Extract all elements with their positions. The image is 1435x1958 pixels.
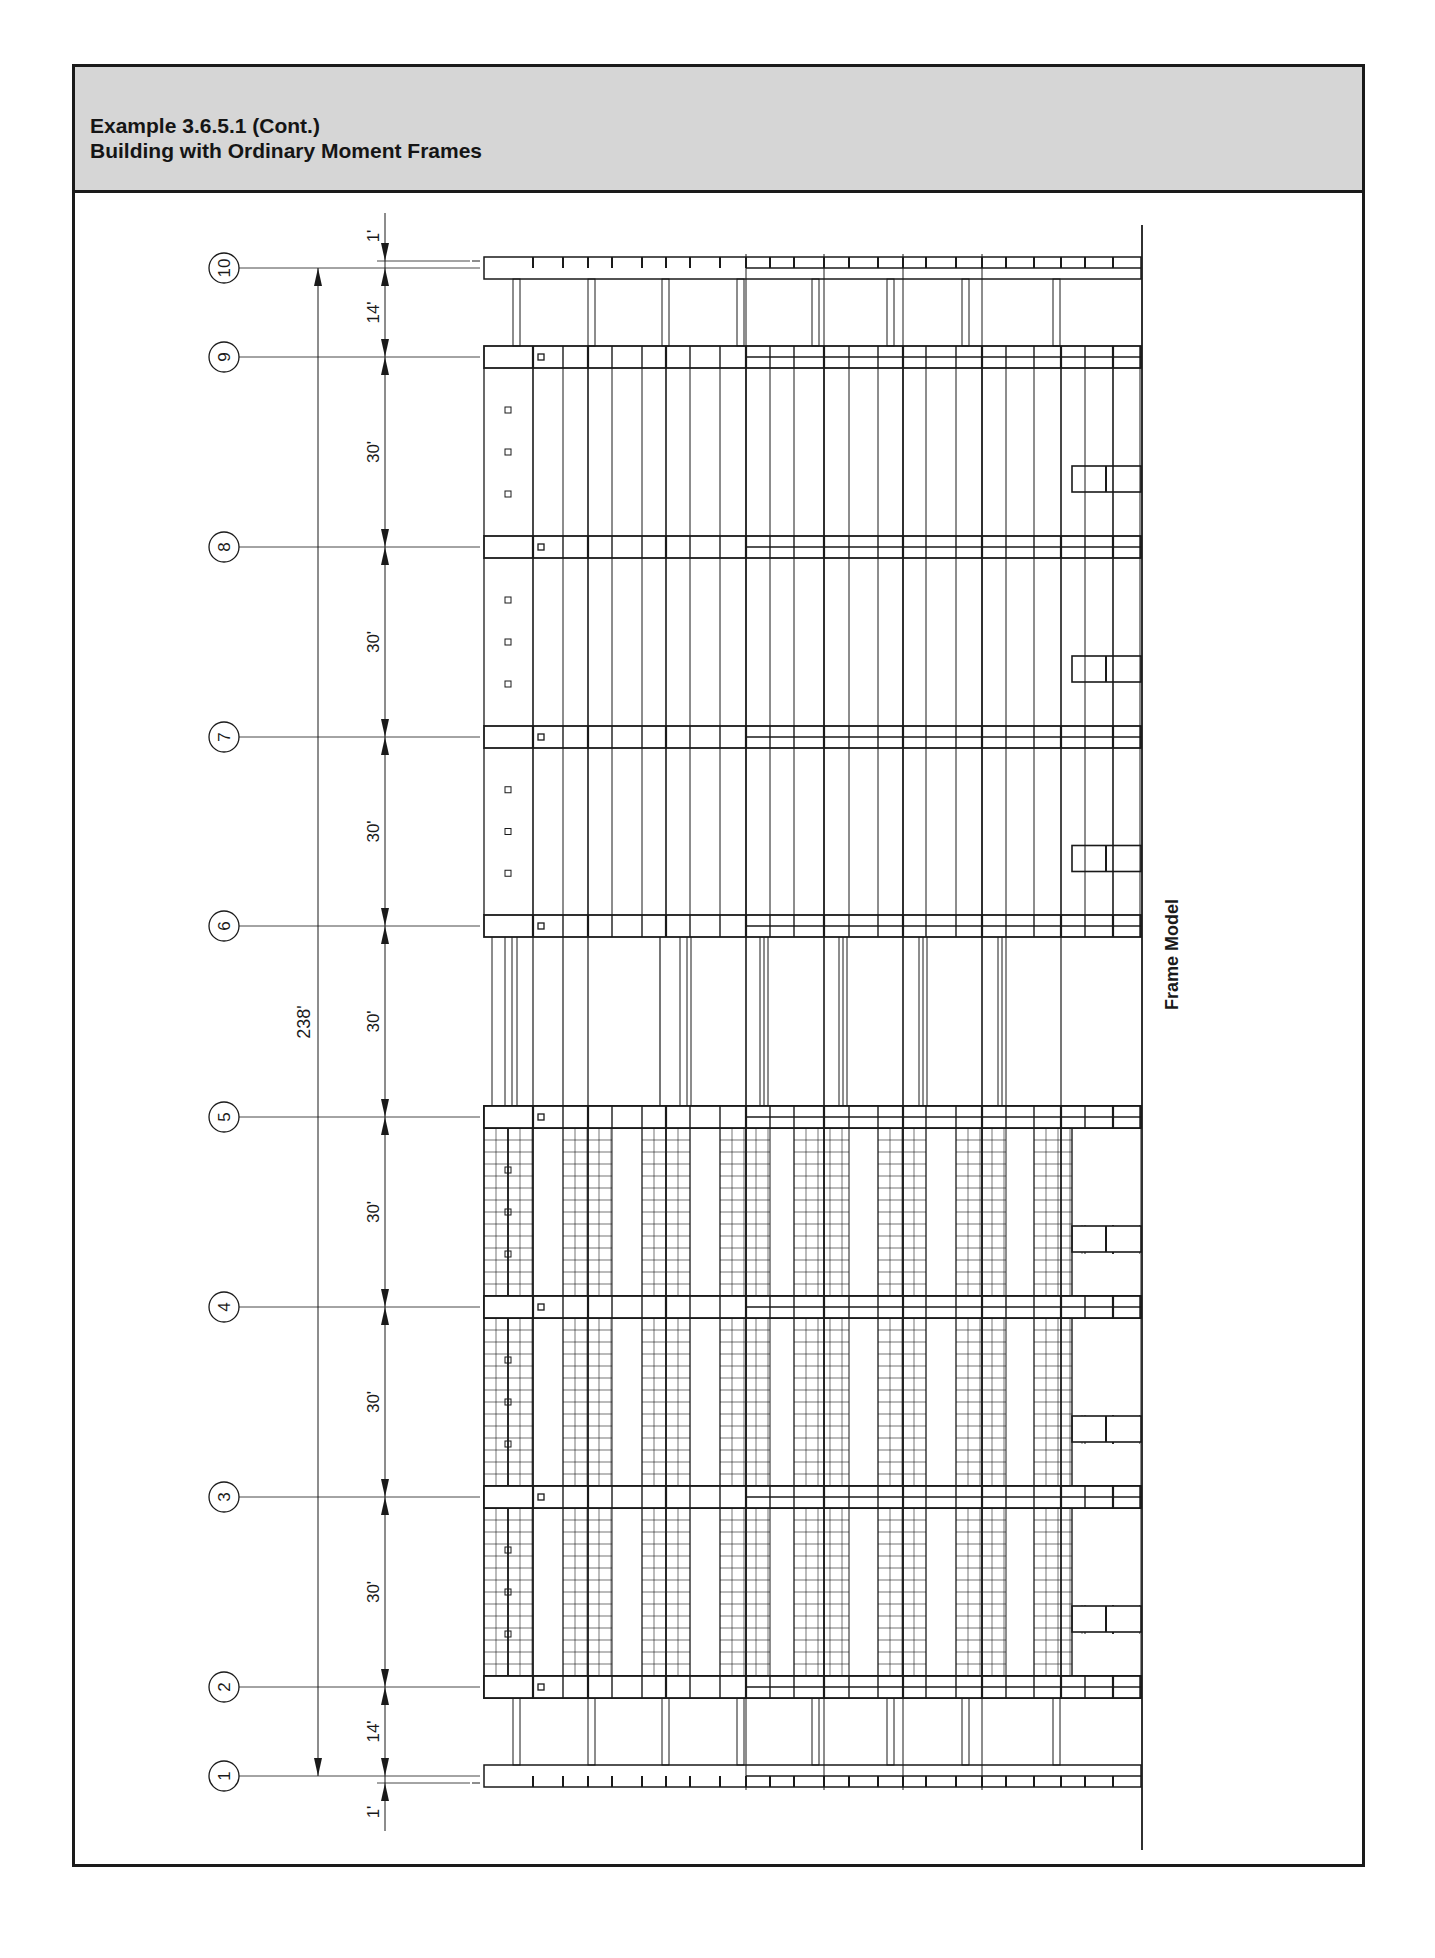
arrow-icon xyxy=(381,339,389,357)
arrow-icon xyxy=(381,1758,389,1776)
arrow-icon xyxy=(381,268,389,286)
stub-column xyxy=(887,1698,894,1765)
frame-model-caption: Frame Model xyxy=(1162,899,1183,1010)
node-marker xyxy=(538,734,544,740)
stub-column xyxy=(737,279,744,346)
stub-column xyxy=(662,1698,669,1765)
top-dimension-label: 1' xyxy=(364,230,383,243)
arrow-icon xyxy=(381,547,389,565)
story-dimension-label: 14' xyxy=(364,301,383,323)
story-dimension-label: 30' xyxy=(364,1391,383,1413)
arrow-icon xyxy=(381,1479,389,1497)
node-marker xyxy=(505,681,511,687)
node-marker xyxy=(505,639,511,645)
node-marker xyxy=(505,597,511,603)
stub-column xyxy=(887,279,894,346)
story-dimension-label: 30' xyxy=(364,441,383,463)
stub-column xyxy=(812,279,819,346)
node-marker xyxy=(538,923,544,929)
node-marker xyxy=(538,544,544,550)
node-marker xyxy=(505,491,511,497)
arrow-icon xyxy=(381,1687,389,1705)
node-marker xyxy=(505,870,511,876)
story-dimension-label: 30' xyxy=(364,1201,383,1223)
panel-blank xyxy=(1072,1254,1140,1295)
arrow-icon xyxy=(381,529,389,547)
panel-blank xyxy=(1072,1634,1140,1675)
stub-column xyxy=(588,279,595,346)
grid-label: 5 xyxy=(215,1112,234,1121)
arrow-icon xyxy=(381,243,389,261)
arrow-icon xyxy=(381,719,389,737)
story-dimension-label: 30' xyxy=(364,1581,383,1603)
panel-blank xyxy=(1072,1509,1140,1605)
arrow-icon xyxy=(381,1117,389,1135)
frame-model-drawing: 10987654321238'14'30'30'30'30'30'30'30'1… xyxy=(0,0,1435,1958)
arrow-icon xyxy=(314,1758,322,1776)
stub-column xyxy=(1053,1698,1060,1765)
node-marker xyxy=(505,407,511,413)
bottom-dimension-label: 1' xyxy=(364,1806,383,1819)
story-dimension-label: 14' xyxy=(364,1720,383,1742)
node-marker xyxy=(505,449,511,455)
story-dimension-label: 30' xyxy=(364,631,383,653)
stub-column xyxy=(513,279,520,346)
grid-label: 7 xyxy=(215,732,234,741)
arrow-icon xyxy=(314,268,322,286)
node-marker xyxy=(505,829,511,835)
story-dimension-label: 30' xyxy=(364,820,383,842)
stub-column xyxy=(1053,279,1060,346)
panel-blank xyxy=(1072,1129,1140,1225)
grid-label: 9 xyxy=(215,352,234,361)
node-marker xyxy=(538,354,544,360)
arrow-icon xyxy=(381,926,389,944)
overall-dimension-label: 238' xyxy=(294,1005,314,1038)
stub-column xyxy=(962,279,969,346)
arrow-icon xyxy=(381,1289,389,1307)
arrow-icon xyxy=(381,737,389,755)
grid-label: 4 xyxy=(215,1302,234,1311)
arrow-icon xyxy=(381,908,389,926)
stub-column xyxy=(962,1698,969,1765)
grid-label: 3 xyxy=(215,1492,234,1501)
arrow-icon xyxy=(381,1307,389,1325)
story-dimension-label: 30' xyxy=(364,1010,383,1032)
grid-label: 1 xyxy=(215,1771,234,1780)
arrow-icon xyxy=(381,1669,389,1687)
grid-label: 6 xyxy=(215,921,234,930)
grid-label: 2 xyxy=(215,1682,234,1691)
stub-column xyxy=(513,1698,520,1765)
arrow-icon xyxy=(381,1783,389,1801)
stub-column xyxy=(588,1698,595,1765)
arrow-icon xyxy=(381,1099,389,1117)
panel-blank xyxy=(1072,1444,1140,1485)
arrow-icon xyxy=(381,357,389,375)
arrow-icon xyxy=(381,1497,389,1515)
grid-label: 8 xyxy=(215,542,234,551)
stub-column xyxy=(662,279,669,346)
grid-label: 10 xyxy=(215,259,234,278)
node-marker xyxy=(505,787,511,793)
stub-column xyxy=(737,1698,744,1765)
stub-column xyxy=(812,1698,819,1765)
panel-blank xyxy=(1072,1319,1140,1415)
